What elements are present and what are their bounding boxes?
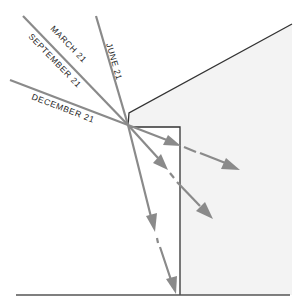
ray-december-incoming [10, 80, 128, 125]
arrowhead-icon [163, 135, 181, 146]
arrowhead-icon [146, 213, 157, 232]
sun-angle-diagram: JUNE 21 MARCH 21 SEPTEMBER 21 DECEMBER 2… [0, 0, 296, 308]
label-june-21: JUNE 21 [104, 42, 124, 81]
building-interior [128, 24, 292, 295]
arrowhead-icon [166, 276, 177, 294]
label-september-21: SEPTEMBER 21 [27, 31, 84, 89]
